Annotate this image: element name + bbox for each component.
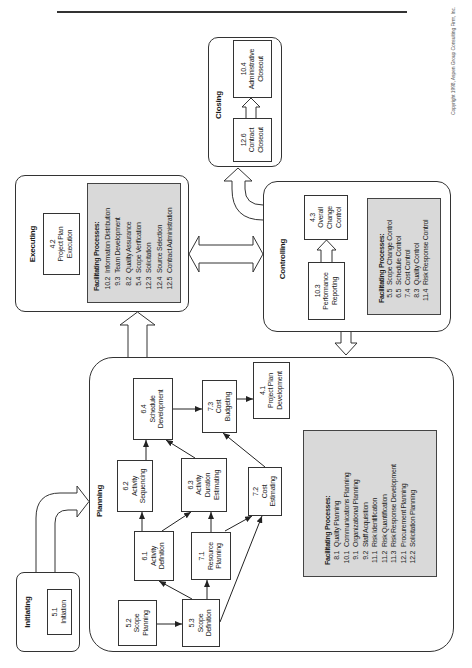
facilitating-item: 5.4Scope Verification	[134, 208, 144, 291]
item-name: Quality Control	[413, 243, 422, 285]
process-id: 7.2	[252, 487, 261, 496]
facilitating-item: 9.1Organizational Planning	[351, 464, 361, 565]
process-12-6-contract-closeout: 12.6 Contract Closeout	[233, 118, 272, 162]
process-id: 7.1	[198, 552, 207, 561]
process-name: Overall Change Control	[317, 206, 343, 229]
facilitating-item: 10.1Communications Planning	[342, 464, 352, 565]
facilitating-title: Facilitating Processes:	[378, 220, 387, 303]
process-name: Cost Budgeting	[215, 392, 232, 421]
process-10-3-performance-reporting: 10.3 Performance Reporting	[308, 262, 345, 320]
process-name: Activity Definition	[150, 543, 167, 570]
item-name: Scope Change Control	[386, 220, 395, 285]
process-6-4-schedule-development: 6.4 Schedule Development	[133, 378, 173, 440]
facilitating-title: Facilitating Processes:	[92, 208, 102, 291]
facilitating-item: 9.3Team Development	[113, 208, 123, 291]
facilitating-item: 11.2Risk Quantification	[380, 464, 390, 565]
executing-controlling-double-arrow	[189, 236, 263, 272]
process-id: 6.3	[187, 481, 196, 490]
contract-closeout-to-admin-closeout-arrow	[242, 98, 260, 118]
initiating-to-planning-arrow	[36, 486, 89, 572]
process-7-2-cost-estimating: 7.2 Cost Estimating	[248, 467, 282, 516]
item-number: 7.4	[404, 289, 413, 303]
facilitating-item: 12.3Solicitation	[144, 208, 154, 291]
process-name: Administrative Closeout	[248, 49, 265, 89]
controlling-facilitating-box: Facilitating Processes: 5.5Scope Change …	[367, 198, 441, 315]
process-id: 4.3	[309, 213, 318, 222]
process-5-1-initiation: 5.1 Initiation	[47, 589, 72, 635]
process-5-2-scope-planning: 5.2 Scope Planning	[118, 600, 157, 646]
process-id: 6.2	[122, 482, 131, 491]
item-name: Information Distribution	[103, 208, 113, 273]
process-name: Activity Sequencing	[131, 469, 148, 503]
item-number: 12.3	[144, 277, 154, 291]
item-number: 8.2	[124, 277, 134, 291]
item-number: 11.4	[422, 289, 431, 303]
process-6-1-activity-definition: 6.1 Activity Definition	[134, 531, 174, 581]
item-name: Contract Administration	[165, 208, 175, 273]
process-id: 5.1	[51, 608, 60, 617]
controlling-to-closing-arrow	[224, 168, 263, 220]
item-name: Risk Quantification	[380, 494, 390, 547]
process-name: Schedule Development	[149, 390, 166, 429]
item-name: Staff Acquisition	[361, 502, 371, 547]
item-name: Schedule Control	[395, 236, 404, 285]
item-name: Cost Control	[404, 250, 413, 285]
facilitating-item: 10.2Information Distribution	[103, 208, 113, 291]
planning-to-executing-arrow	[120, 312, 155, 357]
facilitating-item: 11.4Risk Response Control	[422, 220, 431, 303]
item-name: Source Selection	[155, 225, 165, 273]
controlling-to-planning-arrow	[335, 332, 357, 355]
item-name: Communications Planning	[342, 473, 352, 547]
item-name: Organizational Planning	[351, 480, 361, 547]
item-name: Risk Identification	[370, 498, 380, 547]
item-number: 5.5	[386, 289, 395, 303]
process-name: Project Plan Execution	[57, 227, 74, 262]
process-id: 10.3	[314, 285, 323, 298]
item-number: 10.2	[103, 277, 113, 291]
facilitating-item: 9.2Staff Acquisition	[361, 464, 371, 565]
performance-reporting-to-change-control-arrow	[317, 240, 336, 262]
process-4-1-project-plan-development: 4.1 Project Plan Development	[253, 362, 290, 419]
process-7-1-resource-planning: 7.1 Resource Planning	[191, 532, 231, 580]
process-id: 5.2	[125, 619, 134, 628]
facilitating-item: 8.1Quality Planning	[332, 464, 342, 565]
process-name: Resource Planning	[207, 542, 224, 570]
process-4-3-overall-change-control: 4.3 Overall Change Control	[304, 195, 348, 240]
item-name: Quality Assurance	[124, 222, 134, 273]
item-number: 8.3	[413, 289, 422, 303]
facilitating-item: 8.3Quality Control	[413, 220, 422, 303]
process-name: Scope Planning	[133, 610, 150, 635]
process-id: 7.3	[207, 402, 216, 411]
facilitating-item: 11.1Risk Identification	[370, 464, 380, 565]
item-name: Risk Response Control	[422, 220, 431, 285]
facilitating-item: 11.3Risk Response Development	[389, 464, 399, 565]
item-name: Procurement Planning	[399, 484, 409, 547]
item-number: 10.1	[342, 551, 352, 565]
item-number: 9.3	[113, 277, 123, 291]
item-name: Scope Verification	[134, 222, 144, 273]
item-number: 6.5	[395, 289, 404, 303]
item-name: Solicitation	[144, 243, 154, 273]
facilitating-item: 8.2Quality Assurance	[124, 208, 134, 291]
process-groups-diagram: Copyright 1998, Aspen Group Consulting F…	[0, 0, 472, 668]
facilitating-item: 12.2Solicitation Planning	[408, 464, 418, 565]
facilitating-item: 6.5Schedule Control	[395, 220, 404, 303]
process-name: Contract Closeout	[248, 127, 265, 153]
item-number: 11.3	[389, 551, 399, 565]
process-id: 6.1	[141, 552, 150, 561]
facilitating-title: Facilitating Processes:	[323, 464, 333, 565]
planning-facilitating-box: Facilitating Processes: 8.1Quality Plann…	[303, 430, 437, 577]
process-id: 6.4	[140, 405, 149, 414]
process-name: Project Plan Development	[267, 371, 284, 410]
facilitating-item: 12.1Procurement Planning	[399, 464, 409, 565]
item-number: 8.1	[332, 551, 342, 565]
item-name: Quality Planning	[332, 501, 342, 547]
process-7-3-cost-budgeting: 7.3 Cost Budgeting	[202, 380, 237, 433]
process-6-2-activity-sequencing: 6.2 Activity Sequencing	[117, 460, 153, 512]
item-number: 11.2	[380, 551, 390, 565]
process-id: 12.6	[240, 134, 249, 147]
process-name: Activity Duration Estimating	[195, 470, 221, 500]
facilitating-item: 7.4Cost Control	[404, 220, 413, 303]
executing-facilitating-box: Facilitating Processes: 10.2Information …	[87, 183, 181, 303]
item-number: 12.4	[155, 277, 165, 291]
